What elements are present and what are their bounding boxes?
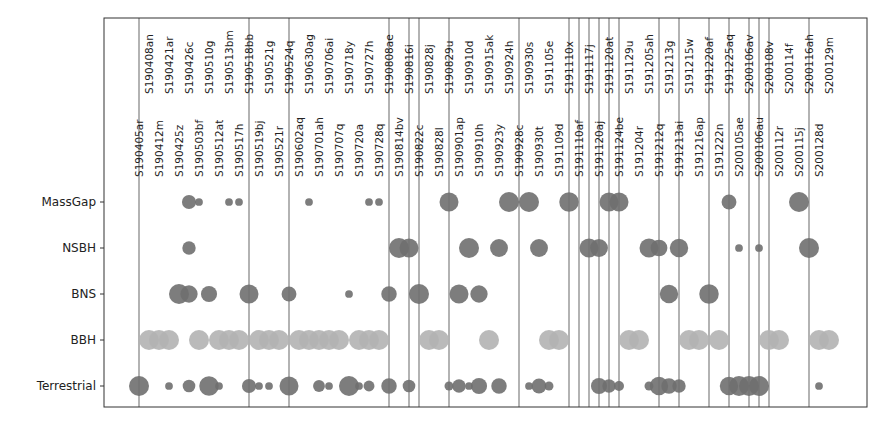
data-point-nsbh (530, 239, 548, 257)
x-label-event: S190814bv (393, 117, 405, 177)
data-point-bbh (689, 330, 709, 350)
data-point-terrestrial (452, 379, 465, 392)
data-point-terrestrial (815, 382, 823, 390)
y-label-massgap: MassGap (42, 195, 96, 209)
x-label-event: S190503bf (193, 120, 205, 177)
x-label-event: S191124be (613, 117, 625, 177)
data-point-terrestrial (313, 380, 325, 392)
x-label-event: S200129m (823, 37, 835, 94)
data-point-massgap (722, 195, 737, 210)
x-label-event: S190727h (363, 41, 375, 94)
x-label-event: S200106au (753, 117, 765, 177)
data-point-massgap (519, 192, 539, 212)
data-point-massgap (225, 198, 233, 206)
data-point-massgap (789, 192, 809, 212)
data-point-terrestrial (749, 376, 769, 396)
data-point-massgap (235, 198, 243, 206)
data-point-bbh (329, 330, 349, 350)
data-point-massgap (440, 193, 459, 212)
x-label-event: S191213g (663, 41, 675, 94)
data-point-bbh (269, 330, 289, 350)
x-label-event: S190517h (233, 124, 245, 177)
data-point-bns (470, 285, 487, 302)
x-label-event: S190706ai (323, 38, 335, 94)
data-point-bbh (819, 330, 839, 350)
data-point-nsbh (182, 241, 195, 254)
data-point-massgap (195, 198, 203, 206)
x-label-event: S190910h (473, 124, 485, 177)
data-point-terrestrial (215, 382, 223, 390)
data-point-terrestrial (672, 379, 685, 392)
data-point-bbh (549, 330, 569, 350)
x-label-event: S190425z (173, 124, 185, 177)
x-label-event: S200114f (783, 43, 795, 94)
x-label-event: S200112r (773, 125, 785, 177)
data-point-bbh (479, 330, 499, 350)
data-point-nsbh (735, 244, 743, 252)
data-point-terrestrial (491, 378, 507, 394)
x-label-event: S190701ah (313, 117, 325, 177)
x-label-event: S191117j (583, 44, 595, 94)
x-label-event: S190928c (513, 124, 525, 177)
x-label-event: S190707q (333, 124, 345, 177)
data-point-terrestrial (381, 378, 397, 394)
x-label-event: S190518bb (243, 34, 255, 94)
y-axis-labels: MassGapNSBHBNSBBHTerrestrial (36, 195, 104, 393)
x-label-event: S190412m (153, 120, 165, 177)
data-point-bbh (769, 330, 789, 350)
x-label-event: S191212q (653, 124, 665, 177)
x-label-event: S200115j (793, 127, 805, 177)
data-point-massgap (559, 192, 579, 212)
data-point-nsbh (755, 244, 763, 252)
data-point-massgap (610, 193, 629, 212)
x-label-event: S190512at (213, 120, 225, 177)
x-label-event: S191213ai (673, 121, 685, 177)
x-label-event: S190828j (423, 44, 435, 94)
x-label-event: S190901ap (453, 117, 465, 177)
data-point-terrestrial (532, 379, 547, 394)
data-point-bbh (629, 330, 649, 350)
data-point-terrestrial (325, 382, 333, 390)
data-point-terrestrial (445, 382, 454, 391)
x-label-event: S190829u (443, 41, 455, 94)
data-point-terrestrial (403, 380, 416, 393)
data-point-bbh (429, 330, 449, 350)
data-point-massgap (365, 198, 373, 206)
y-label-bns: BNS (71, 287, 96, 301)
x-label-event: S191204r (633, 125, 645, 177)
x-label-event: S190930s (523, 42, 535, 94)
x-label-event: S190728q (373, 124, 385, 177)
x-label-event: S190915ak (483, 34, 495, 94)
y-label-bbh: BBH (71, 333, 97, 347)
x-label-event: S200108v (763, 41, 775, 94)
x-label-event: S190816i (403, 44, 415, 94)
x-label-event: S191225aq (723, 34, 735, 94)
data-point-terrestrial (129, 376, 149, 396)
data-point-bns (660, 285, 678, 303)
data-point-bns (240, 285, 259, 304)
data-point-terrestrial (265, 382, 273, 390)
x-label-event: S191110x (563, 41, 575, 94)
data-point-massgap (305, 198, 313, 206)
x-label-event: S200105ae (733, 117, 745, 177)
data-point-terrestrial (183, 380, 196, 393)
x-label-event: S190426c (183, 41, 195, 94)
data-point-terrestrial (364, 381, 375, 392)
x-label-event: S191215w (683, 38, 695, 94)
data-point-terrestrial (471, 378, 487, 394)
data-point-terrestrial (355, 382, 363, 390)
x-label-event: S190408an (143, 34, 155, 94)
data-point-terrestrial (280, 377, 299, 396)
data-point-massgap (375, 198, 383, 206)
x-label-event: S190822c (413, 124, 425, 177)
x-label-event: S190524q (283, 41, 295, 94)
data-point-terrestrial (242, 379, 256, 393)
data-point-bns (345, 290, 353, 298)
data-point-bbh (709, 330, 729, 350)
x-label-event: S190513bm (223, 30, 235, 94)
x-label-event: S190923y (493, 124, 505, 177)
x-label-event: S190521r (273, 125, 285, 177)
x-label-event: S200128d (813, 124, 825, 177)
x-axis-labels: S190405arS190408anS190412mS190421arS1904… (133, 30, 835, 177)
x-label-event: S190519bj (253, 121, 265, 177)
